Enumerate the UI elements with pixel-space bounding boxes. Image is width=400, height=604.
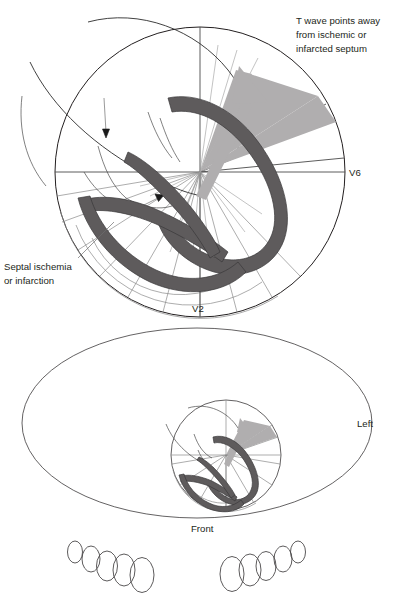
axis-label-v2: V2 [192,303,204,314]
annotation-t-wave-line3: infarcted septum [296,43,367,54]
label-left: Left [357,418,373,429]
label-front: Front [191,523,214,534]
axis-label-v6: V6 [349,167,361,178]
annotation-septal-line1: Septal ischemia [4,261,72,272]
cardiac-vector-figure: V6 V2 T wave points away from ischemic o… [0,0,400,604]
annotation-septal-line2: or infarction [4,275,54,286]
annotation-t-wave-line1: T wave points away [296,15,380,26]
annotation-t-wave-line2: from ischemic or [296,29,367,40]
